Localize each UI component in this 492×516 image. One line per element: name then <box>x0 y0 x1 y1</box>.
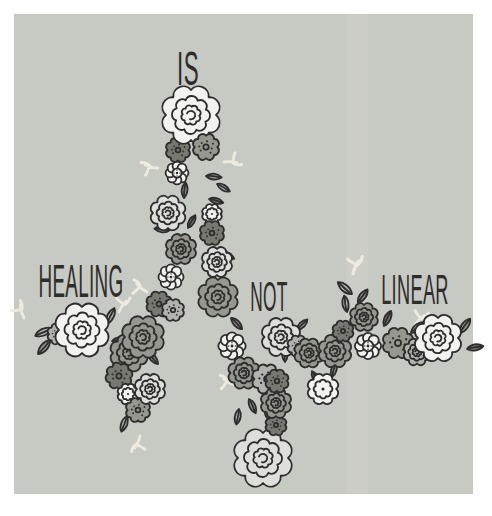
daisy-flower <box>158 264 183 289</box>
pom-flower <box>333 321 354 342</box>
poster-canvas <box>14 14 473 494</box>
word-not: NOT <box>250 273 288 320</box>
healing-poster: HEALING IS NOT LINEAR <box>0 0 492 516</box>
lace-flower <box>202 204 221 223</box>
daisy-flower <box>218 332 245 359</box>
daisy-flower <box>166 162 189 185</box>
word-is: IS <box>177 41 199 95</box>
daisy-flower <box>355 333 381 359</box>
word-healing: HEALING <box>38 255 123 306</box>
paper-fold-band <box>346 14 368 494</box>
word-linear: LINEAR <box>381 265 449 313</box>
pom-flower <box>162 299 184 321</box>
